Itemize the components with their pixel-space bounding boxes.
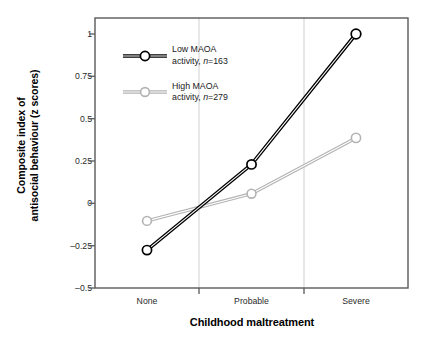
legend-label-line1: Low MAOA xyxy=(172,44,228,56)
x-tick-label-none: None xyxy=(137,296,158,306)
legend-label-line2: activity, n=163 xyxy=(172,56,228,68)
legend-swatch-low-maoa xyxy=(122,48,168,64)
legend-activity-prefix: activity, xyxy=(172,92,203,102)
legend-label-low-maoa: Low MAOA activity, n=163 xyxy=(172,44,228,68)
legend-swatch-high-maoa xyxy=(122,84,168,100)
x-axis-ticks xyxy=(199,288,304,294)
chart-legend: Low MAOA activity, n=163 High MAOA activ… xyxy=(122,44,272,117)
x-tick-label-severe: Severe xyxy=(342,296,370,306)
x-axis-title: Childhood maltreatment xyxy=(95,316,409,328)
legend-label-high-maoa: High MAOA activity, n=279 xyxy=(172,81,228,105)
y-axis-ticks xyxy=(89,34,95,288)
legend-label-line1: High MAOA xyxy=(172,81,228,93)
legend-label-line2: activity, n=279 xyxy=(172,92,228,104)
legend-item-low-maoa: Low MAOA activity, n=163 xyxy=(122,44,272,68)
x-tick-label-probable: Probable xyxy=(234,296,269,306)
series-line-high-maoa xyxy=(147,138,356,221)
chart-figure: Composite index of antisocial behaviour … xyxy=(0,0,425,345)
series-markers-high-maoa xyxy=(143,133,361,225)
legend-item-high-maoa: High MAOA activity, n=279 xyxy=(122,81,272,105)
legend-n-value: =163 xyxy=(208,56,228,66)
legend-activity-prefix: activity, xyxy=(172,56,203,66)
legend-n-value: =279 xyxy=(208,92,228,102)
